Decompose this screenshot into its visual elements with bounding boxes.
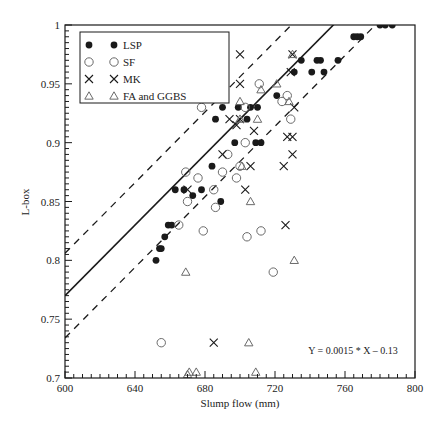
x-marker [247,162,255,170]
filled-circle-marker [209,163,216,170]
open-circle-marker [211,203,219,211]
triangle-marker [245,339,253,346]
y-tick-label: 1 [55,19,61,31]
legend-label: MK [123,73,141,85]
x-marker [219,150,227,158]
filled-circle-marker [212,116,219,123]
filled-circle-marker [153,257,160,264]
x-tick-label: 640 [127,382,144,394]
x-marker [236,50,244,58]
open-circle-marker [182,168,190,176]
filled-circle-marker [244,116,251,123]
open-circle-marker [287,115,295,123]
x-axis-title: Slump flow (mm) [201,397,280,410]
triangle-marker [238,162,246,169]
open-circle-marker [232,174,240,182]
filled-circle-marker [219,104,226,111]
filled-circle-marker [161,233,168,240]
y-tick-label: 0.8 [46,254,60,266]
x-marker [241,186,249,194]
filled-circle-marker [172,186,179,193]
open-circle-marker [257,227,265,235]
filled-circle-marker [298,57,305,64]
x-tick-label: 800 [407,382,424,394]
regression-equation: Y = 0.0015 * X – 0.13 [308,345,398,356]
triangle-marker [290,256,298,263]
open-circle-marker [218,168,226,176]
triangle-marker [246,197,254,204]
filled-circle-marker [158,245,165,252]
y-tick-label: 0.95 [41,78,61,90]
y-tick-label: 0.85 [41,196,61,208]
open-circle-marker [175,221,183,229]
filled-circle-marker [86,42,93,49]
filled-circle-marker [321,69,328,76]
x-marker [210,339,218,347]
filled-circle-marker [335,57,342,64]
scatter-chart: 6006406807207608000.70.750.80.850.90.951… [0,0,443,432]
x-tick-label: 760 [337,382,354,394]
filled-circle-marker [357,33,364,40]
filled-circle-marker [198,186,205,193]
filled-circle-marker [181,186,188,193]
y-tick-label: 0.9 [46,137,60,149]
y-tick-label: 0.7 [46,372,60,384]
y-axis-title: L-box [19,188,31,215]
triangle-marker [253,115,261,122]
open-circle-marker [157,339,165,347]
x-marker [250,127,258,135]
legend-label: FA and GGBS [123,90,186,102]
x-marker [289,133,297,141]
filled-circle-marker [231,139,238,146]
x-marker [280,162,288,170]
filled-circle-marker [254,104,261,111]
series-sf [157,80,295,347]
x-marker [236,80,244,88]
x-tick-label: 720 [267,382,284,394]
open-circle-marker [194,174,202,182]
x-marker [226,115,234,123]
legend: LSPSFMKFA and GGBS [80,32,229,103]
open-circle-marker [243,233,251,241]
open-circle-marker [241,138,249,146]
x-marker [282,221,290,229]
filled-circle-marker [258,139,265,146]
filled-circle-marker [111,42,118,49]
triangle-marker [252,368,260,375]
open-circle-marker [199,227,207,235]
legend-label: SF [123,56,135,68]
filled-circle-marker [291,69,298,76]
open-circle-marker [210,186,218,194]
x-tick-label: 680 [197,382,214,394]
open-circle-marker [197,103,205,111]
x-marker [289,150,297,158]
legend-label: LSP [123,39,142,51]
filled-circle-marker [314,57,321,64]
open-circle-marker [269,268,277,276]
triangle-marker [257,86,265,93]
filled-circle-marker [308,69,315,76]
triangle-marker [182,268,190,275]
open-circle-marker [183,197,191,205]
y-tick-label: 0.75 [41,313,61,325]
